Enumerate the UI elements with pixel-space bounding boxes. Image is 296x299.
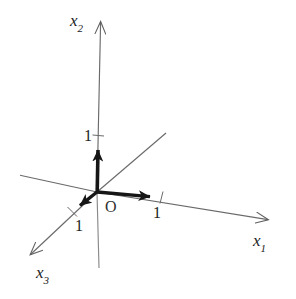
coordinate-axes-drawing — [0, 0, 296, 299]
unit-label-x1: 1 — [153, 205, 161, 221]
axis-label-x2-base: x — [70, 11, 78, 30]
axis-label-x1-base: x — [253, 231, 261, 250]
figure-canvas: x2 x1 x3 1 1 1 O — [0, 0, 296, 299]
axis-label-x3: x3 — [36, 264, 49, 284]
axis-line-x2 — [97, 22, 101, 268]
axis-label-x1-subscript: 1 — [261, 242, 267, 254]
unit-tick-x1 — [160, 192, 163, 204]
axis-label-x2-subscript: 2 — [78, 22, 84, 34]
unit-tick-x2 — [93, 135, 105, 136]
axis-label-x3-base: x — [36, 263, 44, 282]
origin-label: O — [105, 199, 117, 215]
basis-vector-e2 — [97, 150, 98, 192]
axis-label-x3-subscript: 3 — [44, 274, 50, 286]
axis-label-x2: x2 — [70, 12, 83, 32]
unit-label-x3: 1 — [75, 218, 83, 234]
basis-vector-e3 — [80, 192, 97, 206]
axis-label-x1: x1 — [253, 232, 266, 252]
unit-label-x2: 1 — [84, 128, 92, 144]
basis-vector-e1 — [97, 192, 150, 197]
